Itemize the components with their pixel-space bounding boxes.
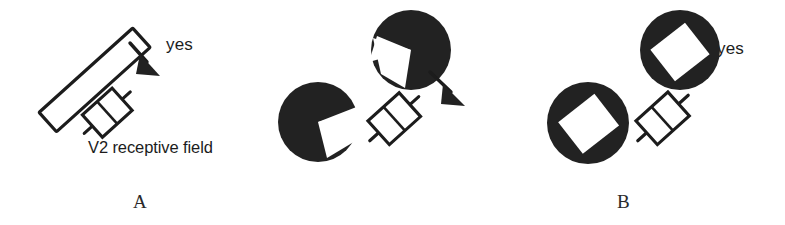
receptive-field-icon	[359, 85, 429, 153]
receptive-field-caption: V2 receptive field	[88, 139, 213, 156]
figure-root: yes V2 receptive field A	[0, 0, 785, 225]
slotted-disc-icon-upper	[640, 10, 720, 90]
answer-label-a: yes	[166, 36, 193, 53]
panel-a: yes V2 receptive field A	[0, 0, 265, 225]
panel-c: no C	[520, 0, 785, 225]
receptive-field-icon	[627, 83, 699, 152]
panel-c-graphic	[520, 0, 785, 225]
arrow-icon	[430, 72, 465, 106]
slotted-disc-icon-lower	[547, 82, 629, 164]
panel-letter-a: A	[133, 192, 147, 211]
panel-b-graphic	[265, 0, 520, 225]
panel-b: yes B	[265, 0, 520, 225]
pacman-inducer-icon-lower	[278, 82, 363, 162]
